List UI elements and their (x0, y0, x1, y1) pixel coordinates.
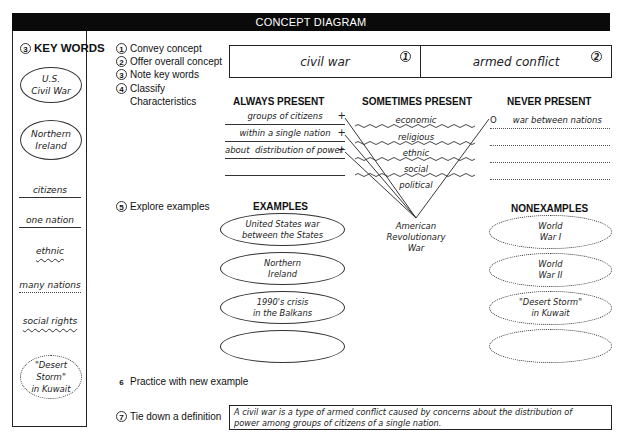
nonexamples-heading: NONEXAMPLES (511, 203, 588, 214)
example-text: in the Balkans (253, 308, 312, 319)
examples-heading: EXAMPLES (253, 201, 308, 212)
definition-box: A civil war is a type of armed conflict … (229, 405, 612, 430)
definition-text: power among groups of citizens of a sing… (234, 418, 607, 429)
example-text: United States war (242, 219, 323, 230)
convergence-example-label: American Revolutionary War (380, 221, 452, 254)
example-text: 1990's crisis (253, 297, 312, 308)
nonexample-oval: "Desert Storm"in Kuwait (489, 291, 612, 325)
example-text: Ireland (264, 269, 301, 280)
nonexample-text: World (538, 221, 562, 232)
example-text: between the States (242, 230, 323, 241)
nonexample-text: War I (538, 232, 562, 243)
nonexample-text: World (538, 259, 562, 270)
nonexample-text: in Kuwait (519, 308, 582, 319)
nonexample-text: "Desert Storm" (519, 297, 582, 308)
example-oval: 1990's crisisin the Balkans (220, 291, 345, 324)
nonexample-oval: WorldWar I (489, 215, 612, 249)
convergence-text: Revolutionary (380, 232, 452, 243)
example-oval-blank[interactable] (220, 330, 345, 363)
nonexample-oval-blank[interactable] (489, 329, 612, 363)
example-text: Northern (264, 258, 301, 269)
convergence-text: War (380, 243, 452, 254)
example-oval: United States warbetween the States (220, 213, 345, 246)
nonexample-oval: WorldWar II (489, 253, 612, 287)
definition-text: A civil war is a type of armed conflict … (234, 407, 607, 418)
nonexample-text: War II (538, 270, 562, 281)
convergence-text: American (380, 221, 452, 232)
example-oval: NorthernIreland (220, 252, 345, 285)
